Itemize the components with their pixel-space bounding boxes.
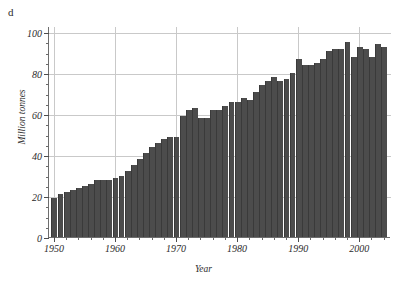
x-tick — [298, 237, 299, 242]
bar — [137, 159, 143, 237]
bar — [381, 47, 387, 238]
x-tick-minor — [262, 237, 263, 240]
y-tick — [44, 156, 49, 157]
bar — [296, 59, 302, 237]
bar — [76, 188, 82, 237]
bar — [375, 44, 381, 237]
bar — [192, 108, 198, 237]
x-tick-minor — [384, 237, 385, 240]
figure-panel-d: d Million tonnes 020406080100 1950196019… — [0, 0, 407, 288]
bar — [106, 180, 112, 237]
bar — [338, 49, 344, 237]
bar — [277, 81, 283, 237]
y-tick-minor — [46, 187, 49, 188]
bar — [314, 63, 320, 237]
y-tick-minor — [46, 125, 49, 126]
x-tick-minor — [139, 237, 140, 240]
bar — [229, 102, 235, 237]
bar — [180, 116, 186, 237]
bar — [247, 100, 253, 237]
y-tick-minor — [46, 228, 49, 229]
bar — [363, 49, 369, 237]
bar — [149, 147, 155, 237]
bar — [70, 190, 76, 237]
bar — [51, 198, 57, 237]
bar — [222, 106, 228, 237]
bar — [113, 178, 119, 237]
y-tick-minor — [46, 95, 49, 96]
bar — [100, 180, 106, 237]
bar — [284, 79, 290, 237]
y-tick-minor — [46, 54, 49, 55]
x-tick-minor — [225, 237, 226, 240]
bar — [204, 118, 210, 237]
bar — [131, 165, 137, 237]
plot-area: 020406080100 195019601970198019902000 — [48, 27, 390, 238]
y-tick-minor — [46, 105, 49, 106]
x-tick — [54, 237, 55, 242]
bar — [58, 194, 64, 237]
x-tick-minor — [323, 237, 324, 240]
bar — [351, 57, 357, 237]
bar — [143, 153, 149, 237]
y-tick-minor — [46, 166, 49, 167]
x-tick-minor — [188, 237, 189, 240]
x-axis-title: Year — [0, 264, 407, 274]
x-tick-label: 1980 — [227, 243, 247, 254]
y-tick-label: 100 — [27, 28, 42, 39]
y-tick-minor — [46, 43, 49, 44]
bar — [271, 77, 277, 237]
bar — [94, 180, 100, 237]
x-tick-minor — [103, 237, 104, 240]
y-tick-label: 0 — [37, 233, 42, 244]
x-tick-minor — [347, 237, 348, 240]
bar — [235, 102, 241, 237]
x-tick — [176, 237, 177, 242]
y-tick-minor — [46, 146, 49, 147]
y-tick-label: 20 — [32, 192, 42, 203]
y-tick — [44, 115, 49, 116]
bar — [198, 118, 204, 237]
x-tick-label: 2000 — [349, 243, 369, 254]
bar — [161, 139, 167, 237]
y-tick-minor — [46, 177, 49, 178]
x-tick-minor — [66, 237, 67, 240]
y-axis-title: Million tonnes — [17, 57, 27, 177]
bar — [253, 92, 259, 237]
x-tick-minor — [200, 237, 201, 240]
x-tick-label: 1990 — [288, 243, 308, 254]
bar — [345, 42, 351, 237]
x-tick-minor — [310, 237, 311, 240]
x-tick-label: 1960 — [105, 243, 125, 254]
y-tick — [44, 74, 49, 75]
bar — [119, 176, 125, 237]
x-tick-minor — [91, 237, 92, 240]
x-tick-minor — [286, 237, 287, 240]
y-tick-minor — [46, 218, 49, 219]
bar — [357, 47, 363, 238]
y-tick-label: 60 — [32, 110, 42, 121]
x-tick — [359, 237, 360, 242]
bar — [174, 137, 180, 237]
x-tick-minor — [213, 237, 214, 240]
y-tick-label: 80 — [32, 69, 42, 80]
x-tick-minor — [127, 237, 128, 240]
x-tick-minor — [335, 237, 336, 240]
y-tick — [44, 197, 49, 198]
y-tick-minor — [46, 207, 49, 208]
x-tick-label: 1970 — [166, 243, 186, 254]
bar — [155, 143, 161, 237]
bar — [332, 49, 338, 237]
panel-letter: d — [8, 6, 14, 18]
bar — [64, 192, 70, 237]
bar — [167, 137, 173, 237]
y-tick-minor — [46, 84, 49, 85]
x-tick-minor — [249, 237, 250, 240]
x-tick-minor — [152, 237, 153, 240]
bar — [265, 81, 271, 237]
bar — [82, 186, 88, 237]
bar — [290, 73, 296, 237]
x-tick — [115, 237, 116, 242]
bar — [125, 171, 131, 237]
x-tick-minor — [78, 237, 79, 240]
